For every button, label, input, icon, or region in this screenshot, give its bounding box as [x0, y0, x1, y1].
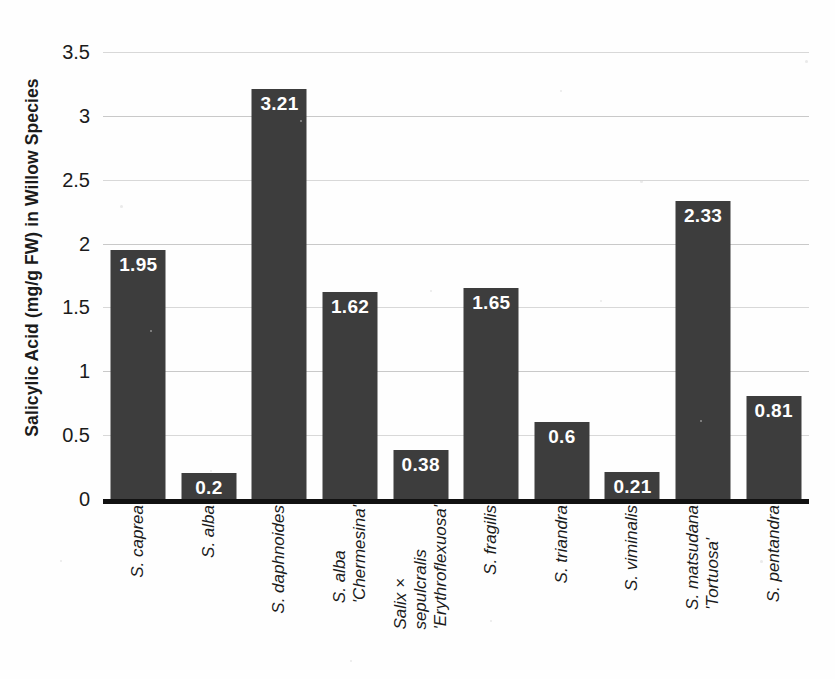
- x-tick-label-line: S. alba: [199, 505, 219, 558]
- x-tick-label-line: 'Erythroflexuosa': [431, 505, 451, 630]
- x-label-slot: S. alba'Chermesina': [315, 505, 386, 655]
- y-tick-label: 0.5: [34, 425, 90, 445]
- bar-slot: 1.65: [456, 52, 527, 499]
- bar-series: 1.950.23.211.620.381.650.60.212.330.81: [103, 52, 809, 499]
- bar-slot: 0.6: [527, 52, 598, 499]
- bar-chart-figure: Salicylic Acid (mg/g FW) in Willow Speci…: [0, 0, 835, 679]
- bar[interactable]: 0.38: [393, 450, 448, 499]
- bar-value-label: 0.6: [534, 427, 589, 448]
- x-tick-label: Salix ×sepulcralis'Erythroflexuosa': [391, 505, 451, 630]
- bar-value-label: 1.62: [323, 297, 378, 318]
- x-tick-label-line: S. daphnoides: [269, 505, 289, 614]
- bar-slot: 0.21: [597, 52, 668, 499]
- bar-value-label: 0.2: [181, 478, 236, 499]
- x-tick-label-line: 'Tortuosa': [703, 505, 723, 610]
- x-tick-label: S. alba'Chermesina': [330, 505, 370, 603]
- scan-speckle: [210, 470, 212, 472]
- bar-slot: 1.95: [103, 52, 174, 499]
- x-label-slot: S. fragilis: [456, 505, 527, 655]
- x-tick-label: S. triandra: [552, 505, 572, 583]
- x-label-slot: Salix ×sepulcralis'Erythroflexuosa': [385, 505, 456, 655]
- bar[interactable]: 0.21: [605, 472, 660, 499]
- x-tick-label-line: sepulcralis: [411, 505, 431, 630]
- x-axis-baseline: [103, 499, 809, 504]
- y-tick-label: 2: [34, 234, 90, 254]
- bar[interactable]: 2.33: [676, 201, 731, 499]
- bar-value-label: 1.65: [464, 293, 519, 314]
- x-label-slot: S. pentandra: [738, 505, 809, 655]
- x-tick-label-line: Salix ×: [391, 505, 411, 630]
- scan-speckle: [700, 420, 702, 422]
- scan-speckle: [430, 290, 432, 292]
- x-tick-label-line: S. viminalis: [622, 505, 642, 591]
- x-tick-label-line: S. matsudana: [683, 505, 703, 610]
- scan-speckle: [560, 90, 562, 92]
- bar[interactable]: 0.2: [181, 473, 236, 499]
- x-tick-label-line: 'Chermesina': [350, 505, 370, 603]
- x-tick-label: S. viminalis: [622, 505, 642, 591]
- x-tick-label: S. caprea: [128, 505, 148, 578]
- x-tick-label: S. fragilis: [481, 505, 501, 575]
- y-tick-label: 1: [34, 361, 90, 381]
- bar-value-label: 1.95: [111, 255, 166, 276]
- x-tick-label-line: S. triandra: [552, 505, 572, 583]
- x-label-slot: S. alba: [174, 505, 245, 655]
- bar[interactable]: 1.62: [323, 292, 378, 499]
- bar-value-label: 0.38: [393, 455, 448, 476]
- y-tick-label: 3: [34, 106, 90, 126]
- bar-slot: 2.33: [668, 52, 739, 499]
- scan-speckle: [805, 60, 808, 63]
- bar[interactable]: 0.81: [746, 396, 801, 499]
- x-tick-label-line: S. pentandra: [764, 505, 784, 602]
- x-label-slot: S. triandra: [527, 505, 598, 655]
- y-axis-tick-labels: 00.511.522.533.5: [30, 52, 90, 499]
- scan-speckle: [490, 620, 492, 622]
- x-label-slot: S. caprea: [103, 505, 174, 655]
- x-tick-label: S. alba: [199, 505, 219, 558]
- scan-speckle: [60, 560, 62, 562]
- scan-speckle: [300, 120, 302, 122]
- bar[interactable]: 1.95: [111, 250, 166, 499]
- x-tick-label: S. daphnoides: [269, 505, 289, 614]
- bar-value-label: 2.33: [676, 206, 731, 227]
- y-tick-label: 2.5: [34, 170, 90, 190]
- bar-slot: 0.2: [174, 52, 245, 499]
- bar[interactable]: 3.21: [252, 89, 307, 499]
- scan-speckle: [640, 180, 643, 183]
- x-tick-label-line: S. fragilis: [481, 505, 501, 575]
- y-tick-label: 1.5: [34, 297, 90, 317]
- bar[interactable]: 0.6: [534, 422, 589, 499]
- x-axis-tick-labels: S. capreaS. albaS. daphnoidesS. alba'Che…: [103, 505, 809, 655]
- bar[interactable]: 1.65: [464, 288, 519, 499]
- bar-value-label: 0.21: [605, 477, 660, 498]
- scan-speckle: [600, 300, 602, 302]
- x-label-slot: S. matsudana'Tortuosa': [668, 505, 739, 655]
- bar-slot: 3.21: [244, 52, 315, 499]
- y-tick-label: 3.5: [34, 42, 90, 62]
- x-tick-label: S. matsudana'Tortuosa': [683, 505, 723, 610]
- scan-speckle: [350, 660, 352, 662]
- bar-slot: 1.62: [315, 52, 386, 499]
- x-tick-label-line: S. alba: [330, 505, 350, 603]
- bar-slot: 0.81: [738, 52, 809, 499]
- scan-speckle: [120, 205, 123, 208]
- scan-speckle: [760, 560, 763, 563]
- x-label-slot: S. viminalis: [597, 505, 668, 655]
- y-tick-label: 0: [34, 489, 90, 509]
- bar-value-label: 3.21: [252, 94, 307, 115]
- scan-speckle: [150, 330, 152, 332]
- bar-slot: 0.38: [385, 52, 456, 499]
- x-label-slot: S. daphnoides: [244, 505, 315, 655]
- x-tick-label: S. pentandra: [764, 505, 784, 602]
- x-tick-label-line: S. caprea: [128, 505, 148, 578]
- bar-value-label: 0.81: [746, 401, 801, 422]
